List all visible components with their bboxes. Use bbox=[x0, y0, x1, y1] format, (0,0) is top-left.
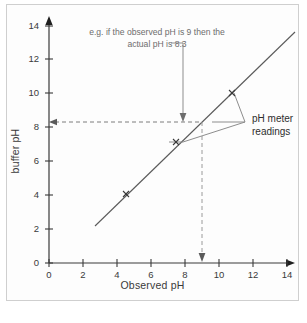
y-tick-label: 0 bbox=[21, 257, 39, 268]
y-tick-label: 2 bbox=[21, 223, 39, 234]
y-axis-title: buffer pH bbox=[9, 116, 21, 186]
y-tick-label: 12 bbox=[21, 53, 39, 64]
bottom-bar bbox=[0, 303, 307, 323]
series-callout-label: pH meter readings bbox=[252, 113, 307, 138]
x-axis bbox=[49, 259, 295, 266]
observed-ph-guide-line bbox=[199, 122, 206, 262]
chart-figure: 14 12 10 8 6 4 2 0 0 2 4 6 8 10 12 14 Ob… bbox=[6, 4, 299, 301]
x-axis-title: Observed pH bbox=[7, 279, 298, 291]
annotation-leader bbox=[171, 43, 186, 122]
y-tick-label: 10 bbox=[21, 87, 39, 98]
annotation-line-2: actual pH is 8.3 bbox=[62, 39, 252, 51]
series-callout-line-1: pH meter bbox=[252, 113, 307, 126]
y-tick-label: 4 bbox=[21, 189, 39, 200]
y-axis bbox=[45, 16, 52, 263]
y-tick-label: 14 bbox=[21, 20, 39, 31]
annotation-worked-example: e.g. if the observed pH is 9 then the ac… bbox=[62, 27, 252, 50]
actual-ph-guide-line bbox=[49, 119, 202, 125]
annotation-line-1: e.g. if the observed pH is 9 then the bbox=[62, 27, 252, 39]
series-callout-line-2: readings bbox=[252, 126, 307, 139]
y-tick-label: 6 bbox=[21, 155, 39, 166]
y-tick-label: 8 bbox=[21, 121, 39, 132]
